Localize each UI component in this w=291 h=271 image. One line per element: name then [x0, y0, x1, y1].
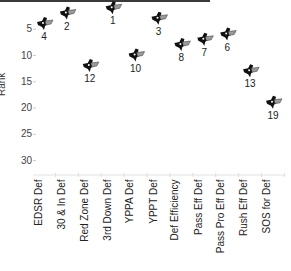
data-label: 1 — [110, 15, 116, 26]
x-tick-label: Def Efficiency — [170, 180, 181, 241]
team-logo-marker — [83, 59, 99, 72]
x-tick-label: 3rd Down Def — [101, 180, 112, 241]
team-logo-marker — [60, 7, 76, 20]
data-label: 12 — [84, 73, 96, 84]
x-tick-label: EDSR Def — [33, 180, 44, 226]
data-label: 6 — [224, 42, 230, 53]
x-tick-label: 30 & In Def — [55, 180, 66, 230]
team-logo-marker — [174, 38, 190, 51]
team-logo-marker — [243, 64, 259, 77]
team-logo-marker — [37, 17, 53, 30]
data-label: 3 — [156, 26, 162, 37]
data-label: 4 — [41, 31, 47, 42]
team-logo-marker — [266, 96, 282, 109]
team-logo-marker — [152, 12, 168, 25]
rank-chart: Rank 51015202530 421211038761319 EDSR De… — [0, 0, 291, 271]
team-logo-marker — [129, 49, 145, 62]
data-label: 2 — [64, 21, 70, 32]
data-label: 13 — [245, 78, 257, 89]
x-tick-label: SOS for Def — [261, 180, 272, 234]
team-logo-marker — [220, 28, 236, 41]
data-label: 10 — [130, 63, 142, 74]
x-tick-label: YPPT Def — [147, 180, 158, 224]
x-tick-label: Rush Eff Def — [238, 180, 249, 237]
team-logo-marker — [106, 1, 122, 14]
data-label: 7 — [202, 47, 208, 58]
x-tick-label: Pass Pro Eff Def — [215, 180, 226, 254]
x-tick-label: YPPA Def — [124, 180, 135, 224]
data-label: 19 — [267, 110, 279, 121]
x-tick-label: Pass Eff Def — [193, 180, 204, 235]
team-logo-marker — [197, 33, 213, 46]
x-tick-label: Red Zone Def — [79, 180, 90, 242]
data-label: 8 — [179, 52, 185, 63]
